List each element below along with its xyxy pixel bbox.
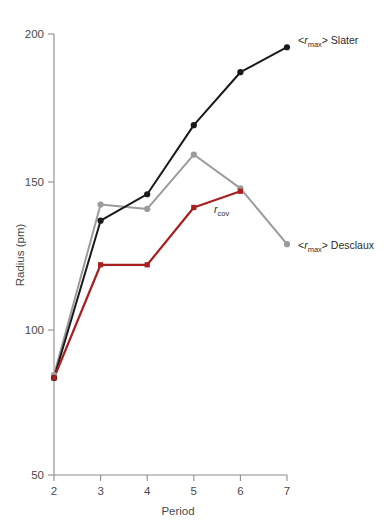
x-tick-label-5: 5 (191, 485, 197, 497)
data-point (237, 69, 243, 75)
x-tick-label-7: 7 (284, 485, 290, 497)
x-tick-label-2: 2 (51, 485, 57, 497)
data-point (51, 375, 56, 380)
data-point (144, 206, 150, 212)
data-point (191, 122, 197, 128)
data-point (191, 205, 196, 210)
y-tick-label-200: 200 (25, 28, 44, 40)
y-tick-label-150: 150 (25, 176, 44, 188)
line-series-desclaux (54, 155, 287, 376)
line-series-slater (54, 47, 287, 378)
x-axis-ticks (54, 475, 287, 481)
y-axis-title: Radius (pm) (14, 224, 26, 287)
chart-svg: 200 150 100 50 2 3 4 5 6 7 Period Radius… (0, 0, 387, 527)
data-point (144, 191, 150, 197)
radius-vs-period-chart: 200 150 100 50 2 3 4 5 6 7 Period Radius… (0, 0, 387, 527)
markers-series-rcov (51, 189, 243, 381)
x-axis-title: Period (161, 505, 194, 517)
data-point (238, 189, 243, 194)
series-label-slater: <rmax> Slater (298, 34, 359, 49)
series-label-rcov: rcov (214, 203, 229, 218)
y-axis-ticks (48, 34, 54, 475)
data-point (98, 262, 103, 267)
data-point (191, 151, 197, 157)
y-tick-label-100: 100 (25, 324, 44, 336)
desclaux-label-sub: max (308, 245, 322, 254)
series-label-desclaux: <rmax> Desclaux (298, 239, 375, 254)
slater-label-sub: max (308, 40, 322, 49)
slater-label-tail: > Slater (322, 34, 359, 46)
x-tick-label-3: 3 (97, 485, 103, 497)
data-point (98, 201, 104, 207)
rcov-label-sub: cov (218, 209, 230, 218)
data-point (145, 262, 150, 267)
y-tick-label-50: 50 (31, 469, 44, 481)
x-tick-label-4: 4 (144, 485, 151, 497)
data-point (98, 218, 104, 224)
data-point (284, 241, 290, 247)
data-point (284, 44, 290, 50)
markers-series-slater (51, 44, 290, 381)
desclaux-label-tail: > Desclaux (322, 239, 375, 251)
x-tick-label-6: 6 (237, 485, 243, 497)
